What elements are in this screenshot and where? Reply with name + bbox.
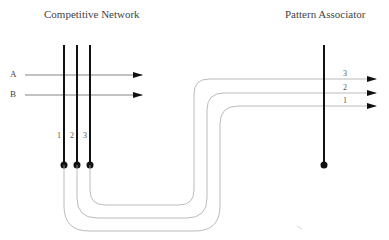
pattern-associator-title: Pattern Associator: [285, 8, 365, 20]
axon-3: [90, 79, 376, 205]
associator-cell-body: [321, 162, 328, 169]
axon-2: [77, 93, 376, 218]
diagram-svg: [0, 0, 389, 240]
diagram-canvas: Competitive Network Pattern Associator A…: [0, 0, 389, 240]
input-a-label: A: [10, 69, 17, 79]
unit-1-label: 1: [57, 131, 61, 140]
competitive-network-title: Competitive Network: [44, 8, 140, 20]
unit-3-label: 3: [83, 131, 87, 140]
associator-input-1-label: 1: [343, 96, 347, 105]
stray-mark: [297, 226, 302, 229]
associator-input-2-label: 2: [343, 83, 347, 92]
input-b-label: B: [10, 89, 16, 99]
associator-input-3-label: 3: [343, 69, 347, 78]
unit-2-label: 2: [70, 131, 74, 140]
axon-1: [64, 106, 376, 231]
